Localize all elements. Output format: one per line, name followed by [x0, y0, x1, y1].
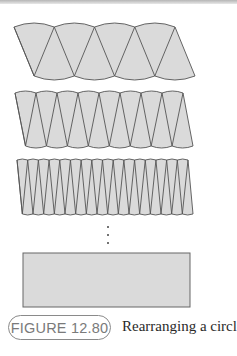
figure-caption: Rearranging a circle: [122, 318, 237, 335]
limit-rectangle: [23, 253, 190, 307]
row-16-sectors: [17, 159, 193, 215]
row-4-sectors: [14, 23, 195, 80]
circle-rearrangement-diagram: [0, 0, 237, 356]
figure-label-badge: FIGURE 12.80: [8, 315, 111, 340]
row-8-sectors: [15, 91, 193, 148]
ellipsis-dots: [107, 226, 109, 244]
